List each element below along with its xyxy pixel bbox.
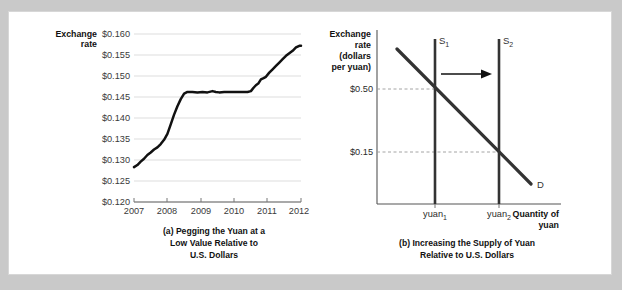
panel-b-y-axis-title-line-2: rate — [355, 40, 371, 50]
demand-curve — [397, 49, 531, 184]
panel-a-y-axis-title-line-1: Exchange — [55, 29, 97, 39]
x-tick-label-1: 2008 — [157, 206, 177, 216]
panel-b-price-guides — [377, 89, 499, 152]
panel-b-y-tick-label-015: $0.15 — [350, 147, 373, 157]
y-tick-label-6: $0.130 — [102, 155, 130, 165]
panel-a-x-tick-labels: 2007 2008 2009 2010 2011 2012 — [124, 206, 309, 216]
y-tick-label-4: $0.140 — [102, 113, 130, 123]
panel-b-y-axis-title-line-4: per yuan) — [331, 62, 371, 72]
x-tick-label-4: 2011 — [257, 206, 277, 216]
panel-b-caption-line-1: (b) Increasing the Supply of Yuan — [399, 238, 535, 248]
y-tick-label-0: $0.160 — [102, 29, 130, 39]
y-tick-label-3: $0.145 — [102, 92, 130, 102]
panel-a-pegging-yuan: Exchange rate $0.160 $0.15 — [9, 12, 319, 276]
panel-a-svg: Exchange rate $0.160 $0.15 — [9, 12, 319, 276]
x-tick-label-3: 2010 — [224, 206, 244, 216]
panel-b-y-axis-title-line-3: (dollars — [339, 51, 371, 61]
panel-b-x-tick-labels: yuan1 yuan2 — [423, 209, 511, 221]
panel-b-x-tick-marks — [435, 204, 499, 208]
panel-a-y-tick-labels: $0.160 $0.155 $0.150 $0.145 $0.140 $0.13… — [102, 29, 130, 207]
figure-white-panel: Exchange rate $0.160 $0.15 — [8, 11, 612, 275]
panel-b-x-axis-title-line-1: Quantity of — [513, 209, 559, 219]
demand-curve-label: D — [537, 179, 544, 190]
shift-arrow — [441, 70, 492, 79]
panel-b-curve-labels: S1 S2 D — [439, 35, 544, 190]
panel-b-x-axis-title-line-2: yuan — [538, 220, 559, 230]
panel-a-caption: (a) Pegging the Yuan at a Low Value Rela… — [163, 226, 265, 260]
x-tick-label-0: 2007 — [124, 206, 144, 216]
panel-a-gridlines — [134, 34, 301, 181]
panel-b-y-tick-labels: $0.50 $0.15 — [350, 84, 373, 157]
y-tick-label-5: $0.135 — [102, 134, 130, 144]
supply-curve-s1-label: S1 — [439, 35, 449, 48]
y-tick-label-7: $0.125 — [102, 176, 130, 186]
x-tick-label-2: 2009 — [191, 206, 211, 216]
panel-b-y-tick-label-050: $0.50 — [350, 84, 373, 94]
shift-arrow-head-icon — [481, 70, 492, 79]
panel-a-exchange-rate-line — [134, 46, 301, 167]
x-tick-label-5: 2012 — [289, 206, 309, 216]
panel-a-y-axis-title: Exchange rate — [55, 29, 97, 49]
figure-root: Exchange rate $0.160 $0.15 — [0, 0, 622, 290]
x-tick-label-yuan1: yuan1 — [423, 209, 447, 221]
panel-a-caption-line-3: U.S. Dollars — [190, 250, 238, 260]
y-tick-label-2: $0.150 — [102, 71, 130, 81]
panel-b-caption-line-2: Relative to U.S. Dollars — [420, 250, 514, 260]
panel-a-x-axis — [134, 198, 301, 202]
supply-curve-s2-label: S2 — [503, 35, 513, 48]
panel-b-y-axis-title-line-1: Exchange — [329, 29, 371, 39]
panel-b-x-axis-title: Quantity of yuan — [513, 209, 559, 230]
panel-b-y-axis-title: Exchange rate (dollars per yuan) — [329, 29, 371, 72]
panel-b-svg: Exchange rate (dollars per yuan) — [309, 12, 613, 276]
panel-b-caption: (b) Increasing the Supply of Yuan Relati… — [399, 238, 535, 260]
panel-a-caption-line-2: Low Value Relative to — [170, 238, 258, 248]
panel-b-increasing-supply: Exchange rate (dollars per yuan) — [309, 12, 613, 276]
panel-a-caption-line-1: (a) Pegging the Yuan at a — [163, 226, 265, 236]
x-tick-label-yuan2: yuan2 — [487, 209, 511, 221]
panel-a-y-axis-title-line-2: rate — [81, 39, 97, 49]
y-tick-label-1: $0.155 — [102, 50, 130, 60]
